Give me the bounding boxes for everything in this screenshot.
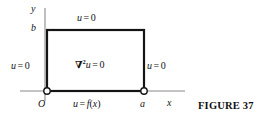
bc-left-value: 0 — [25, 60, 30, 71]
bc-right-value: 0 — [161, 60, 166, 71]
bc-left-equals: = — [16, 60, 25, 71]
boundary-condition-left: u=0 — [11, 61, 30, 71]
interior-laplace-equation: ∇2u=0 — [75, 60, 104, 70]
y-tick-label-b: b — [31, 23, 36, 33]
corner-a-node-marker — [141, 88, 147, 94]
laplace-value: 0 — [99, 59, 104, 70]
bc-top-equals: = — [82, 12, 91, 23]
origin-node-marker — [44, 88, 50, 94]
boundary-condition-top: u=0 — [77, 13, 96, 23]
boundary-condition-bottom: u=f(x) — [73, 99, 101, 109]
boundary-condition-right: u=0 — [147, 61, 166, 71]
figure-caption: FIGURE 37 — [198, 100, 254, 111]
bc-bottom-paren-close: ) — [97, 98, 100, 109]
origin-label: O — [38, 99, 45, 109]
bc-right-equals: = — [152, 60, 161, 71]
bc-bottom-equals: = — [78, 98, 87, 109]
nabla-icon: ∇2 — [75, 59, 86, 70]
figure-37-container: y b O a x u=0 u=0 u=0 ∇2u=0 u=f(x) FIGUR… — [0, 0, 268, 126]
y-axis-label: y — [31, 4, 35, 14]
x-axis-label: x — [167, 98, 171, 108]
bc-top-value: 0 — [91, 12, 96, 23]
x-tick-label-a: a — [140, 99, 145, 109]
